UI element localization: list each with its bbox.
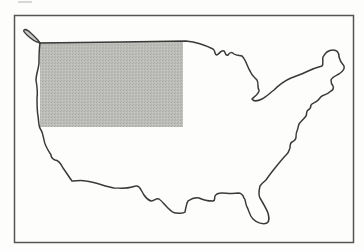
us-outline-map	[0, 0, 364, 251]
highlighted-region	[40, 42, 183, 127]
